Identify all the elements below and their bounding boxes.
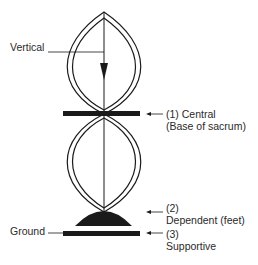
dependent-arrow-icon — [146, 210, 151, 214]
central-label-number: (1) Central — [166, 108, 216, 120]
supportive-label-number: (3) — [166, 228, 179, 240]
dependent-label-number: (2) — [166, 202, 179, 214]
central-label-desc: (Base of sacrum) — [166, 120, 246, 132]
supportive-arrow-icon — [146, 231, 151, 235]
central-arrow-icon — [146, 112, 151, 116]
dependent-label-desc: Dependent (feet) — [166, 214, 245, 226]
supportive-label-desc: Supportive — [166, 240, 216, 252]
dependent-dome — [75, 211, 132, 226]
central-bar — [63, 111, 140, 116]
down-arrow-icon — [100, 63, 108, 80]
vertical-label: Vertical — [10, 41, 44, 53]
ground-label: Ground — [10, 225, 45, 237]
ground-bar — [63, 231, 140, 236]
